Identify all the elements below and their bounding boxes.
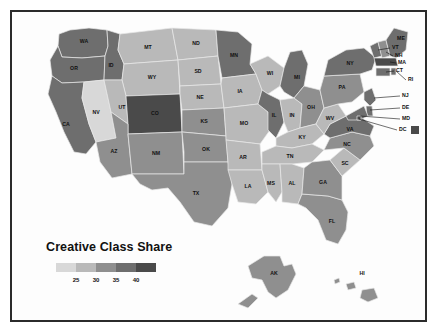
map-label-AL: AL	[289, 180, 297, 186]
map-label-ND: ND	[192, 40, 200, 46]
map-label-UT: UT	[119, 104, 127, 110]
map-label-AR: AR	[239, 154, 247, 160]
map-label-NC: NC	[343, 141, 351, 147]
callout-label-NH: NH	[395, 52, 403, 58]
map-label-AK: AK	[270, 270, 278, 276]
map-label-NE: NE	[196, 94, 204, 100]
map-label-MO: MO	[240, 120, 248, 126]
state-PA[interactable]	[320, 74, 364, 108]
map-label-MI: MI	[294, 74, 300, 80]
legend-band-5	[136, 263, 156, 272]
legend-tick-30: 30	[93, 277, 100, 283]
state-NJ[interactable]	[364, 88, 376, 106]
choropleth-map: WA OR CA NV ID MT WY UT AZ CO NM ND SD N…	[12, 12, 425, 320]
legend: Creative Class Share 25 30 35 40	[46, 240, 172, 283]
map-label-GA: GA	[319, 179, 327, 185]
map-label-NY: NY	[346, 60, 354, 66]
state-HI[interactable]	[334, 278, 378, 302]
leader-line-NJ	[374, 96, 400, 98]
map-label-MN: MN	[230, 52, 238, 58]
callout-label-CT: CT	[396, 67, 404, 73]
map-label-WI: WI	[267, 70, 274, 76]
callout-label-DC: DC	[399, 126, 407, 132]
map-label-AZ: AZ	[111, 148, 119, 154]
map-label-WV: WV	[326, 115, 335, 121]
map-label-VA: VA	[347, 126, 354, 132]
callout-label-MA: MA	[398, 59, 406, 65]
map-label-NM: NM	[152, 150, 160, 156]
legend-band-3	[96, 263, 116, 272]
map-canvas: WA OR CA NV ID MT WY UT AZ CO NM ND SD N…	[12, 12, 425, 320]
map-label-PA: PA	[339, 84, 346, 90]
map-label-KY: KY	[298, 134, 306, 140]
legend-tick-35: 35	[113, 277, 120, 283]
state-MA[interactable]	[374, 58, 398, 66]
map-label-TN: TN	[287, 153, 294, 159]
callout-label-MD: MD	[402, 115, 410, 121]
state-FL[interactable]	[298, 194, 348, 244]
map-label-MS: MS	[267, 180, 275, 186]
callout-label-NJ: NJ	[402, 92, 409, 98]
map-label-ID: ID	[108, 62, 113, 68]
map-label-CO: CO	[151, 110, 159, 116]
legend-title: Creative Class Share	[46, 240, 172, 254]
map-label-WY: WY	[148, 74, 157, 80]
map-label-OH: OH	[307, 104, 315, 110]
map-label-IA: IA	[237, 88, 242, 94]
leader-line-DE	[370, 108, 400, 110]
callout-label-RI: RI	[408, 76, 414, 82]
map-label-OR: OR	[70, 65, 78, 71]
state-AK[interactable]	[238, 256, 296, 308]
legend-band-4	[116, 263, 136, 272]
callout-label-VT: VT	[392, 44, 399, 50]
map-label-TX: TX	[193, 190, 200, 196]
map-label-IN: IN	[289, 112, 294, 118]
legend-tick-25: 25	[73, 277, 80, 283]
map-label-MT: MT	[144, 44, 152, 50]
legend-tick-40: 40	[133, 277, 140, 283]
legend-band-1	[56, 263, 76, 272]
map-label-OK: OK	[202, 146, 210, 152]
legend-band-2	[76, 263, 96, 272]
map-label-CA: CA	[62, 121, 70, 127]
map-label-SC: SC	[341, 160, 348, 166]
leader-line-MD	[360, 116, 400, 119]
map-label-WA: WA	[80, 38, 89, 44]
dc-marker-square	[411, 126, 419, 134]
map-label-HI: HI	[359, 270, 365, 276]
callout-label-DE: DE	[402, 104, 410, 110]
map-label-ME: ME	[397, 35, 405, 41]
figure-frame: WA OR CA NV ID MT WY UT AZ CO NM ND SD N…	[10, 10, 427, 322]
map-label-FL: FL	[329, 218, 336, 224]
map-label-SD: SD	[194, 68, 201, 74]
map-label-KS: KS	[200, 118, 208, 124]
map-label-LA: LA	[245, 183, 252, 189]
map-label-NV: NV	[92, 109, 100, 115]
